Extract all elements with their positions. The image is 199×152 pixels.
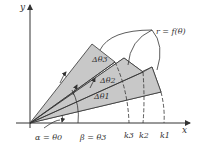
sector-label-1: Δθ1	[93, 92, 110, 101]
callout-curve	[100, 30, 152, 50]
arc-k2	[143, 72, 144, 123]
tick-k3: k3	[124, 131, 134, 140]
sector-label-3: Δθ3	[91, 55, 108, 64]
curve-label: r = f(θ)	[156, 27, 186, 36]
beta-label: β = θ3	[79, 133, 106, 142]
tick-k1: k1	[160, 131, 170, 140]
x-axis-label: x	[182, 125, 187, 135]
tick-k2: k2	[139, 131, 149, 140]
y-axis-label: y	[19, 2, 26, 12]
arc-k1	[161, 92, 164, 123]
sector-label-2: Δθ2	[99, 76, 116, 85]
alpha-label: α = θ0	[35, 133, 62, 142]
polar-area-diagram: y x r = f(θ) Δθ3 Δθ2 Δθ1 α = θ0 β = θ3 k…	[0, 0, 199, 152]
